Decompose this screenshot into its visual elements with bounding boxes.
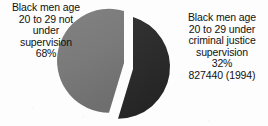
- pie-chart-figure: Black men age 20 to 29 not under supervi…: [0, 0, 268, 126]
- pie-slice-under-supervision: [118, 17, 170, 119]
- label-not-under-supervision: Black men age 20 to 29 not under supervi…: [0, 2, 92, 60]
- label-left-line-1: Black men age: [0, 2, 92, 14]
- label-left-percentage: 68%: [0, 48, 92, 60]
- label-under-supervision: Black men age 20 to 29 under criminal ju…: [176, 12, 268, 82]
- label-right-line-1: Black men age: [176, 12, 268, 24]
- label-right-count-year: 827440 (1994): [176, 70, 268, 82]
